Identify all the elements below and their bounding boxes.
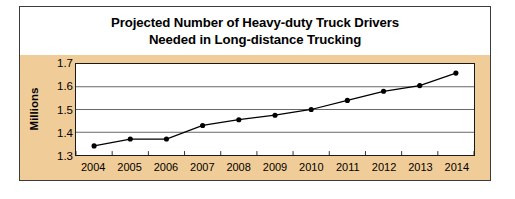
x-axis-tick-label: 2013 (408, 161, 432, 173)
x-axis-tick-marks (76, 151, 474, 155)
y-axis-tick-label: 1.6 (42, 80, 73, 92)
x-axis-tick-label: 2005 (117, 161, 141, 173)
y-axis-title: Millions (26, 63, 42, 155)
x-axis-tick-label: 2009 (263, 161, 287, 173)
x-axis-tick-label: 2006 (154, 161, 178, 173)
data-point-marker (236, 117, 241, 122)
y-axis-tick-label: 1.4 (42, 127, 73, 139)
plot-area (75, 63, 475, 156)
data-point-marker (309, 107, 314, 112)
chart-body: Millions 1.31.41.51.61.7 200420052006200… (20, 55, 490, 180)
x-axis-tick-labels: 2004200520062007200820092010201120122013… (75, 159, 475, 177)
data-point-marker (128, 137, 133, 142)
data-point-marker (453, 71, 458, 76)
y-axis-title-text: Millions (28, 88, 40, 131)
data-point-marker (200, 123, 205, 128)
x-axis-tick-label: 2011 (336, 161, 360, 173)
data-point-marker (272, 113, 277, 118)
gridlines (76, 87, 474, 133)
y-axis-tick-label: 1.7 (42, 57, 73, 69)
chart-title-line-1: Projected Number of Heavy-duty Truck Dri… (111, 14, 399, 31)
chart-title-band: Projected Number of Heavy-duty Truck Dri… (20, 7, 490, 55)
data-point-marker (92, 143, 97, 148)
x-axis-tick-label: 2004 (81, 161, 105, 173)
data-point-marker (381, 89, 386, 94)
data-point-marker (345, 98, 350, 103)
y-axis-tick-label: 1.3 (42, 150, 73, 162)
y-axis-tick-label: 1.5 (42, 104, 73, 116)
chart-title-line-2: Needed in Long-distance Trucking (149, 31, 361, 48)
x-axis-tick-label: 2010 (299, 161, 323, 173)
x-axis-tick-label: 2007 (190, 161, 214, 173)
data-point-marker (164, 137, 169, 142)
x-axis-tick-label: 2008 (226, 161, 250, 173)
line-chart-svg (76, 64, 474, 155)
data-point-marker (417, 83, 422, 88)
x-axis-tick-label: 2012 (372, 161, 396, 173)
y-axis-tick-labels: 1.31.41.51.61.7 (42, 55, 73, 159)
x-axis-tick-label: 2014 (445, 161, 469, 173)
chart-figure: Projected Number of Heavy-duty Truck Dri… (19, 6, 491, 181)
